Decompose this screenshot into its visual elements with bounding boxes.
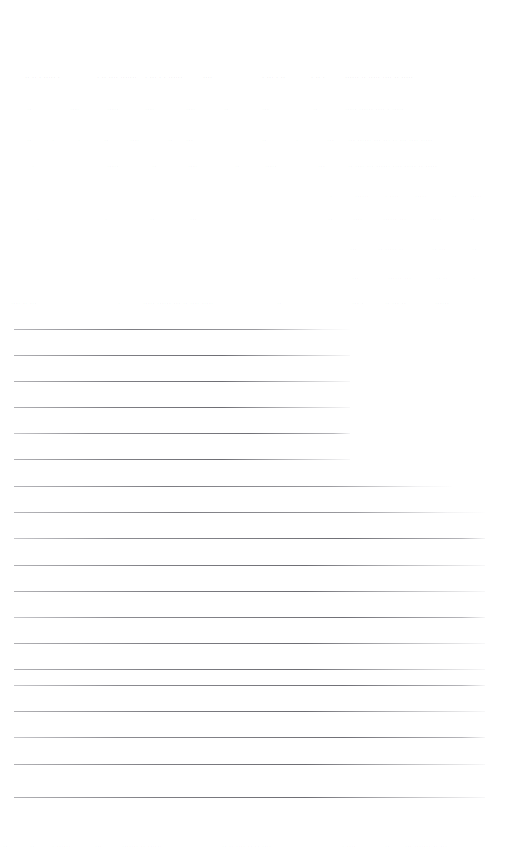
ruled-line	[14, 381, 350, 382]
faint-text-segment: ..	[235, 160, 240, 169]
faint-text-segment: .. .... ... ...... .... ..... .. .....	[348, 160, 437, 169]
ruled-line	[14, 617, 485, 618]
faint-text-segment: .....	[430, 213, 442, 222]
faint-text-segment: ..	[27, 103, 32, 112]
ruled-line	[14, 737, 485, 738]
faint-text-segment: ....	[130, 134, 139, 143]
ruled-line	[14, 565, 485, 566]
faint-text-segment: ..	[224, 103, 229, 112]
faint-text-segment: ....	[353, 213, 362, 222]
ruled-line	[14, 355, 350, 356]
ruled-line	[14, 407, 350, 408]
faint-text-segment: ..	[452, 190, 457, 199]
faint-text-segment: ....	[186, 103, 195, 112]
faint-text-segment: .	[52, 134, 54, 143]
faint-text-segment: ..	[27, 134, 32, 143]
ruled-line	[14, 764, 485, 765]
faint-text-segment: ....	[188, 160, 197, 169]
faint-text-segment: .. .. . ..... .	[25, 71, 60, 80]
faint-text-segment: ..... ...... ... .. .... .....	[143, 297, 213, 306]
faint-text-segment: ..	[168, 134, 173, 143]
faint-text-segment: .	[37, 213, 39, 222]
faint-text-segment: . ... . . ......	[145, 71, 183, 80]
ruled-line	[14, 433, 350, 434]
faint-text-segment: ..	[150, 213, 155, 222]
faint-text-block: .. .. . ..... .. .. .... ........ ... . …	[0, 0, 519, 857]
scanned-page: .. .. . ..... .. .. .... ........ ... . …	[0, 0, 519, 857]
faint-text-segment: ..... ...... .... . .....	[345, 103, 404, 112]
faint-text-segment: .	[473, 272, 475, 281]
faint-text-segment: .....	[470, 190, 482, 199]
faint-text-segment: ...	[350, 243, 357, 252]
faint-text-segment: ... ...... ... ... .. ... .... .....	[348, 134, 433, 143]
faint-text-segment: ....	[145, 103, 154, 112]
ruled-line	[14, 486, 452, 487]
faint-text-segment: ..	[30, 840, 35, 849]
faint-text-segment: .	[32, 160, 34, 169]
faint-text-segment: ..	[152, 160, 157, 169]
ruled-line	[14, 538, 485, 539]
faint-text-segment: .	[330, 190, 332, 199]
faint-text-segment: .....	[107, 103, 119, 112]
faint-text-segment: .....	[107, 160, 119, 169]
ruled-line	[14, 512, 485, 513]
faint-text-segment: .. ..	[436, 272, 448, 281]
faint-text-segment: .	[118, 297, 120, 306]
faint-text-segment: .....	[415, 190, 427, 199]
faint-text-segment: .. ...	[432, 243, 446, 252]
ruled-line	[14, 459, 350, 460]
faint-text-segment: .	[296, 134, 298, 143]
faint-text-segment: ..	[470, 213, 475, 222]
faint-text-segment: ...	[318, 160, 325, 169]
faint-text-segment: . ....	[342, 840, 356, 849]
faint-text-segment: ..	[262, 134, 267, 143]
ruled-line	[14, 685, 485, 686]
faint-text-segment: ..	[3, 840, 8, 849]
faint-text-segment: ..	[277, 297, 282, 306]
ruled-line	[14, 591, 485, 592]
ruled-line	[14, 711, 485, 712]
faint-text-segment: ..	[472, 243, 477, 252]
faint-text-segment: ...... ...	[383, 213, 406, 222]
faint-text-segment: ...	[186, 134, 193, 143]
faint-text-segment: ....	[203, 71, 212, 80]
faint-text-segment: ...	[352, 272, 359, 281]
ruled-line	[14, 797, 485, 798]
faint-text-segment: . .. .	[311, 71, 325, 80]
faint-text-segment: ..	[385, 840, 390, 849]
faint-text-segment: ...	[95, 840, 102, 849]
faint-text-segment: .....	[265, 160, 277, 169]
faint-text-segment: ...	[190, 213, 197, 222]
faint-text-segment: .. ..... ..	[378, 243, 404, 252]
faint-text-segment: ... .	[352, 297, 364, 306]
faint-text-segment: . ......	[52, 840, 71, 849]
faint-text-segment: ....... .. ......	[122, 840, 162, 849]
ruled-line	[14, 669, 485, 670]
ruled-line	[14, 329, 350, 330]
faint-text-segment: .... .. ...	[11, 297, 37, 306]
faint-text-segment: ..	[313, 103, 318, 112]
faint-text-segment: ..	[104, 134, 109, 143]
faint-text-segment: ... ....... .. ...	[405, 840, 447, 849]
faint-text-segment: .	[105, 213, 107, 222]
faint-text-segment: .. ... ..	[385, 297, 406, 306]
faint-text-segment: ..	[328, 213, 333, 222]
faint-text-segment: ......	[355, 190, 369, 199]
faint-text-segment: . ... . ..	[262, 71, 285, 80]
faint-text-segment: .. .. .... .. .. ....	[222, 840, 271, 849]
faint-text-segment: ...	[327, 134, 334, 143]
faint-text-segment: . .. .... .......	[97, 71, 137, 80]
faint-text-segment: ...	[262, 103, 269, 112]
faint-text-segment: ....	[70, 103, 79, 112]
faint-text-segment: ...... ...	[388, 272, 411, 281]
faint-text-segment: . ....	[385, 190, 399, 199]
faint-text-segment: .	[78, 134, 80, 143]
faint-text-segment: ......	[435, 297, 449, 306]
faint-text-segment: ...... .. ..... .... .. .....	[345, 71, 413, 80]
ruled-line	[14, 643, 485, 644]
